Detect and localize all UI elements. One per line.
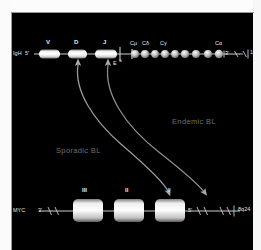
diagram-canvas [12,13,253,250]
myc-exon-shapes [73,199,185,222]
igh-segment-shapes [39,50,117,59]
igh-5prime-label: 5' [25,50,29,56]
myc-cytoband-label: 8q24 [238,206,250,212]
figure-plate: IgH 5' V D J Cμ Cδ Cγ Cα E S 3' 14q32 MY… [12,13,253,250]
switch-label: S [119,58,122,63]
plate-right-margin [253,0,261,250]
myc-name-label: MYC [13,207,25,213]
plate-top-border [11,12,254,13]
myc-exon-label-i: I [168,187,170,193]
plate-left-border [11,12,12,250]
myc-3prime-label: 3' [38,207,42,213]
igh-constant-label-cmu: Cμ [130,40,137,46]
endemic-bl-label: Endemic BL [172,117,216,126]
igh-segment-label-d: D [74,39,78,45]
igh-segment-label-j: J [103,39,106,45]
igh-constant-label-cdelta: Cδ [142,40,149,46]
sporadic-bl-label: Sporadic BL [56,146,101,155]
igh-constant-region-dots [131,50,223,58]
myc-5prime-label: 5' [188,207,192,213]
igh-3prime-label: 3' [225,50,229,56]
enhancer-label: E [113,60,117,66]
figure-root: IgH 5' V D J Cμ Cδ Cγ Cα E S 3' 14q32 MY… [0,0,261,250]
endemic-bl-arrows [107,62,205,193]
myc-exon-label-iii: III [82,187,87,193]
igh-segment-label-v: V [46,39,50,45]
igh-constant-label-calpha: Cα [215,40,222,46]
igh-constant-label-cgamma: Cγ [160,40,167,46]
sporadic-bl-arrows [77,62,169,193]
myc-exon-label-ii: II [125,187,128,193]
igh-name-label: IgH [13,50,22,56]
